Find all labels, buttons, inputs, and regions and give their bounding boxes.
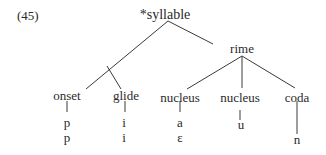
node-glide: glide [113,89,139,102]
segment-glide-2: i [122,131,126,144]
node-rime: rime [230,42,254,55]
node-nucleus-1: nucleus [160,91,200,104]
segment-nucleus2-1: u [238,118,245,131]
segment-nucleus1-2: ε [177,131,182,144]
node-nucleus-2: nucleus [220,91,260,104]
segment-onset-1: p [64,116,71,129]
segment-nucleus1-1: a [177,116,183,129]
segment-coda-2: n [294,133,301,146]
node-onset: onset [53,89,80,102]
segment-glide-1: i [122,116,126,129]
branch-to-glide [107,66,121,89]
segment-onset-2: p [64,131,71,144]
tree-branches [0,0,326,155]
branch-syllable-onset [86,21,168,89]
branch-rime-coda [242,56,295,88]
branch-syllable-rime [168,21,213,44]
node-syllable: *syllable [140,8,191,22]
node-coda: coda [285,91,310,104]
branch-rime-nucleus1 [187,56,242,89]
